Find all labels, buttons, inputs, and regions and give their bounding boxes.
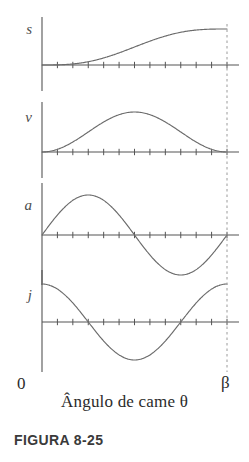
x-axis-origin-label: 0 xyxy=(17,375,26,392)
panel-v xyxy=(42,102,239,178)
x-axis-beta-label: β xyxy=(221,374,230,391)
figure-caption: FIGURA 8-25 xyxy=(14,432,103,448)
panel-j xyxy=(42,270,239,372)
plot-canvas xyxy=(0,0,249,380)
axis-label-j: j xyxy=(12,288,32,303)
axis-label-v: v xyxy=(12,110,32,125)
axis-label-a: a xyxy=(12,198,32,213)
panel-s xyxy=(42,17,239,91)
x-axis-caption: Ângulo de came θ xyxy=(0,392,249,412)
curve-s xyxy=(42,29,227,65)
panel-a xyxy=(42,183,239,285)
svaj-diagram xyxy=(0,0,249,380)
figure-page: s v a j 0 β Ângulo de came θ FIGURA 8-25 xyxy=(0,0,249,462)
axis-label-s: s xyxy=(12,22,32,37)
curve-v xyxy=(42,112,227,152)
